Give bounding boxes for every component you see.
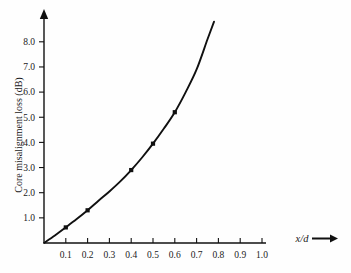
y-tick-label: 2.0 [23, 188, 35, 198]
x-axis-title-group: x/d [295, 233, 338, 244]
x-tick-label: 0.9 [234, 250, 246, 260]
chart-canvas: 1.02.03.04.05.06.07.08.0 0.10.20.30.40.5… [0, 0, 351, 273]
x-axis-label-arrow-icon [312, 235, 338, 243]
data-point-marker [86, 208, 90, 212]
data-markers [64, 110, 177, 229]
y-tick-label: 1.0 [23, 213, 35, 223]
y-tick-label: 3.0 [23, 163, 35, 173]
y-tick-label: 7.0 [23, 62, 35, 72]
data-point-marker [151, 142, 155, 146]
y-tick-label: 4.0 [23, 138, 35, 148]
x-tick-label: 0.5 [147, 250, 159, 260]
data-point-marker [129, 168, 133, 172]
y-axis-title-group: Core misalignment loss (dB) [13, 77, 25, 192]
x-tick-label: 0.4 [125, 250, 137, 260]
y-axis-arrow-icon [40, 9, 48, 19]
x-tick-label: 1.0 [256, 250, 268, 260]
chart-figure: 1.02.03.04.05.06.07.08.0 0.10.20.30.40.5… [0, 0, 351, 273]
x-tick-label: 0.1 [60, 250, 72, 260]
x-axis-ticks: 0.10.20.30.40.50.60.70.80.91.0 [60, 238, 268, 260]
y-tick-label: 8.0 [23, 37, 35, 47]
y-tick-label: 6.0 [23, 87, 35, 97]
x-tick-label: 0.8 [212, 250, 224, 260]
y-axis-title: Core misalignment loss (dB) [13, 77, 25, 192]
data-point-marker [173, 110, 177, 114]
data-point-marker [64, 225, 68, 229]
y-tick-label: 5.0 [23, 113, 35, 123]
x-tick-label: 0.2 [82, 250, 94, 260]
data-curve-group [44, 22, 214, 243]
x-tick-label: 0.7 [191, 250, 203, 260]
x-tick-label: 0.3 [103, 250, 115, 260]
y-axis-ticks: 1.02.03.04.05.06.07.08.0 [23, 37, 44, 223]
x-axis-title: x/d [295, 233, 310, 244]
x-tick-label: 0.6 [169, 250, 181, 260]
data-curve [44, 22, 214, 243]
axes-group [40, 9, 266, 243]
